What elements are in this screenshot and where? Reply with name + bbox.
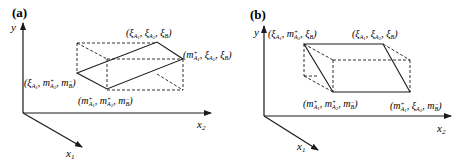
x1-axis-label: x1: [296, 140, 305, 154]
point-label-top-left: (ξA1, m+A2, ξB): [268, 28, 317, 41]
y-axis-label: y: [253, 26, 259, 38]
x2-axis-label: x2: [196, 118, 206, 132]
point-label-bottom-right: (m+A1, ξA2, m−B): [390, 100, 442, 113]
point-label-left: (ξA1, m+A2, m−B): [24, 77, 76, 90]
solid-parallelogram-a: [77, 42, 183, 89]
x1-axis: [23, 113, 82, 147]
point-label-bottom-left: (m+A1, m+A2, m−B): [303, 98, 358, 111]
panel-b-label: (b): [250, 7, 266, 22]
panel-b: (b) y x2 x1 (ξA1, m+A2, ξB) (ξA1, ξA2, ξ…: [250, 7, 451, 154]
point-label-right: (m+A1, ξA2, ξB): [183, 49, 232, 62]
panel-a: (a) y x2 x1 (ξA1, ξA2, ξB) (m+A1, ξA2, ξ…: [10, 5, 232, 161]
point-label-top-right: (ξA1, ξA2, ξB): [352, 28, 398, 41]
x2-axis-label: x2: [436, 122, 446, 136]
panel-a-label: (a): [12, 5, 27, 20]
x1-axis-label: x1: [65, 147, 74, 161]
figure-canvas: (a) y x2 x1 (ξA1, ξA2, ξB) (m+A1, ξA2, ξ…: [0, 0, 462, 168]
point-label-bottom: (m+A1, m+A2, m−B): [78, 95, 133, 108]
solid-parallelogram-b: [304, 44, 410, 92]
x1-axis: [264, 116, 318, 150]
point-label-top: (ξA1, ξA2, ξB): [126, 27, 172, 40]
y-axis-label: y: [10, 21, 16, 33]
dashed-box-b: [304, 44, 410, 92]
